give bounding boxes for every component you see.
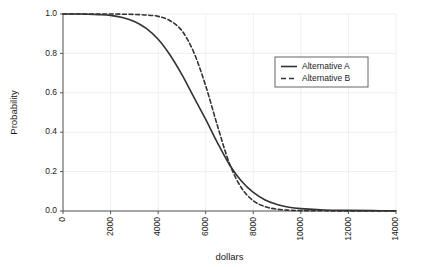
x-tick-label: 12000 — [343, 217, 353, 241]
y-axis-title: Probability — [8, 90, 19, 135]
x-tick-label: 0 — [57, 217, 67, 222]
y-tick-label: 0.4 — [45, 126, 57, 136]
y-tick-label: 0.8 — [45, 48, 57, 58]
y-tick-label: 0.6 — [45, 87, 57, 97]
legend-label-b: Alternative B — [302, 73, 351, 83]
x-axis-title: dollars — [216, 251, 244, 262]
legend-label-a: Alternative A — [302, 61, 350, 71]
x-tick-label: 10000 — [295, 217, 305, 241]
y-tick-label: 1.0 — [45, 8, 57, 18]
x-tick-label: 2000 — [105, 217, 115, 236]
x-tick-label: 4000 — [152, 217, 162, 236]
y-tick-label: 0.2 — [45, 166, 57, 176]
y-tick-label: 0.0 — [45, 205, 57, 215]
x-tick-label: 6000 — [200, 217, 210, 236]
chart-canvas: 02000400060008000100001200014000 0.00.20… — [0, 0, 421, 267]
probability-chart: 02000400060008000100001200014000 0.00.20… — [0, 0, 421, 267]
chart-legend[interactable]: Alternative AAlternative B — [275, 57, 368, 87]
x-tick-label: 8000 — [248, 217, 258, 236]
x-tick-label: 14000 — [390, 217, 400, 241]
